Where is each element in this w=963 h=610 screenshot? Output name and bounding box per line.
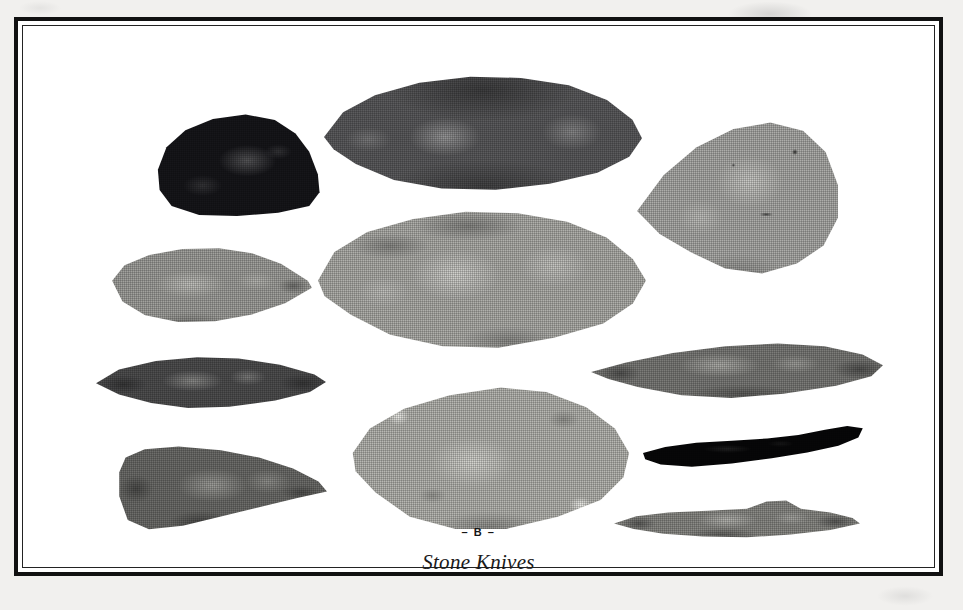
artifact-gray-leaf-blade — [108, 243, 314, 329]
artifact-long-lanceolate-blade — [591, 334, 883, 402]
plate-page: – B – Stone Knives — [0, 0, 963, 610]
artifact-large-light-ovate-blade — [318, 209, 646, 352]
plate-caption: Stone Knives — [18, 550, 939, 572]
plate-field: – B – Stone Knives — [18, 21, 939, 572]
artifact-square-base-blade — [115, 441, 327, 533]
artifact-narrow-dark-lanceolate — [96, 351, 326, 413]
artifact-light-teardrop-blade — [635, 116, 840, 280]
artifact-black-crescent-blade — [643, 424, 865, 476]
artifact-large-dark-ovate-blade — [324, 73, 642, 196]
artifact-dark-domed-knife — [151, 111, 323, 224]
artifact-mottled-ovate-blade — [347, 383, 632, 535]
plate-letter-label: – B – — [18, 526, 939, 538]
plate-frame-outer: – B – Stone Knives — [14, 17, 943, 576]
